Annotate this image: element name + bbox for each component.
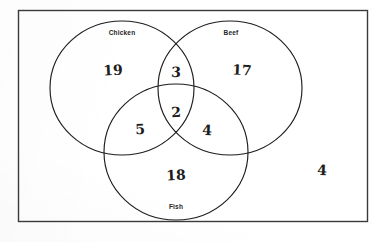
venn-diagram-canvas: Chicken Beef Fish 19 17 18 3 5 4 2 4 (0, 0, 386, 242)
venn-diagram-svg (0, 0, 386, 242)
universal-set-rectangle (19, 11, 368, 222)
